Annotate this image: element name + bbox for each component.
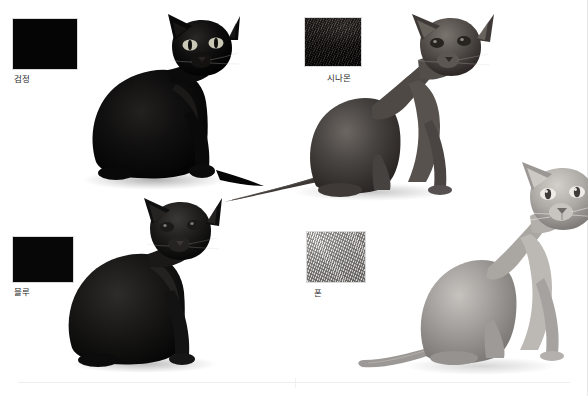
- cat-photo-blue: [52, 196, 252, 378]
- swatch-label-fawn: 폰: [314, 288, 322, 298]
- cat-photo-fawn: [356, 160, 588, 382]
- footer-divider: [18, 382, 570, 383]
- footer-center-tick: [295, 378, 296, 388]
- swatch-label-black: 검정: [14, 74, 30, 84]
- swatch-label-blue: 블루: [14, 287, 30, 297]
- color-chart-page: 검정: [0, 0, 588, 396]
